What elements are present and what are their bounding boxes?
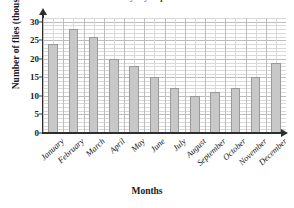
bar <box>69 29 78 133</box>
vertical-gridline <box>185 18 186 133</box>
y-axis-tick-labels: 051015202530 <box>17 0 39 208</box>
bar <box>190 96 199 133</box>
vertical-gridline <box>266 18 267 133</box>
bar <box>48 44 57 133</box>
y-tick-label: 10 <box>17 91 39 101</box>
gridlines <box>43 18 286 133</box>
bar <box>231 88 240 133</box>
vertical-gridline <box>225 18 226 133</box>
vertical-gridline <box>205 18 206 133</box>
y-axis-arrow-icon <box>39 8 47 15</box>
vertical-gridline <box>165 18 166 133</box>
bar <box>109 59 118 133</box>
vertical-gridline <box>63 18 64 133</box>
vertical-gridline <box>84 18 85 133</box>
chart-title: Monthly Fly Population <box>103 0 191 2</box>
y-tick-label: 5 <box>17 109 39 119</box>
chart-title-strip: Monthly Fly Population <box>0 0 294 7</box>
x-axis-tick-labels: JanuaryFebruaryMarchAprilMayJuneJulyAugu… <box>43 134 286 188</box>
vertical-gridline <box>144 18 145 133</box>
plot-area <box>43 18 286 133</box>
bar <box>129 66 138 133</box>
x-tick-label: April <box>107 136 127 155</box>
y-tick-label: 30 <box>17 17 39 27</box>
bar <box>170 88 179 133</box>
bar <box>251 77 260 133</box>
y-tick-label: 0 <box>17 128 39 138</box>
bar-chart: Monthly Fly Population Number of flies (… <box>0 0 294 208</box>
vertical-gridline <box>246 18 247 133</box>
bar <box>150 77 159 133</box>
x-tick-label: June <box>149 136 168 154</box>
bar <box>89 37 98 133</box>
vertical-gridline <box>104 18 105 133</box>
x-tick-label: May <box>129 136 147 154</box>
x-tick-label: March <box>83 136 106 159</box>
vertical-gridline <box>43 18 44 133</box>
vertical-gridline <box>124 18 125 133</box>
x-axis-title: Months <box>0 186 294 196</box>
bar <box>271 63 280 133</box>
y-tick-label: 15 <box>17 72 39 82</box>
bar <box>210 92 219 133</box>
y-tick-label: 25 <box>17 35 39 45</box>
y-tick-label: 20 <box>17 54 39 64</box>
